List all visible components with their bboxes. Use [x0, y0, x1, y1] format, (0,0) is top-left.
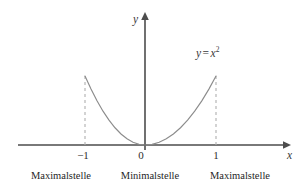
x-tick-label-one: 1 — [204, 150, 228, 161]
y-axis-arrow-icon — [141, 12, 149, 20]
parabola-path — [85, 76, 216, 145]
caption-maximalstelle-left: Maximalstelle — [13, 170, 109, 182]
x-tick-label-minus-one: −1 — [70, 150, 96, 161]
y-axis-label: y — [133, 14, 138, 26]
function-label-operator: = — [201, 47, 211, 59]
x-axis-label: x — [287, 150, 292, 162]
caption-maximalstelle-right: Maximalstelle — [192, 170, 288, 182]
parabola-figure: y x y=x2 −1 0 1 Maximalstelle Minimalste… — [0, 0, 300, 191]
plot-canvas — [0, 0, 300, 191]
x-tick-label-zero: 0 — [132, 150, 150, 161]
function-label: y=x2 — [196, 48, 219, 60]
function-label-exponent: 2 — [216, 45, 220, 54]
x-axis-arrow-icon — [283, 141, 291, 149]
caption-minimalstelle: Minimalstelle — [104, 170, 196, 182]
